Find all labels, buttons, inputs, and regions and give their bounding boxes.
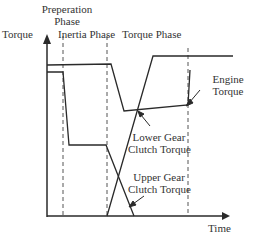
lower-gear-label: Lower Gear Clutch Torque [128,131,190,155]
y-axis-arrow-icon [43,34,51,44]
inertia-phase-label: Inertia Phase [58,28,115,40]
upper-gear-clutch-torque-curve [47,72,134,216]
prep-phase-line1: Preperation [32,3,102,15]
upper-line2: Clutch Torque [128,183,190,195]
engine-line1: Engine [204,73,252,85]
torque-phase-label: Torque Phase [122,28,181,40]
engine-torque-curve [47,64,190,111]
prep-phase-line2: Phase [32,15,102,27]
engine-line2: Torque [204,85,252,97]
y-axis-label: Torque [2,28,33,40]
upper-line1: Upper Gear [128,171,190,183]
engine-torque-label: Engine Torque [204,73,252,97]
upper-gear-label: Upper Gear Clutch Torque [128,171,190,195]
lower-line1: Lower Gear [128,131,190,143]
x-axis-arrow-icon [222,212,230,220]
prep-phase-label: Preperation Phase [32,3,102,27]
x-axis-label: Time [208,222,231,234]
lower-line2: Clutch Torque [128,143,190,155]
